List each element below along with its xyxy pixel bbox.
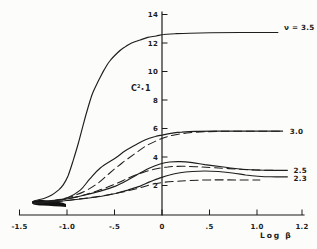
series-nu-3.5-solid bbox=[34, 32, 278, 201]
series-label-nu-2.3-solid: 2.3 bbox=[293, 174, 307, 183]
x-tick-label-.5: .5 bbox=[206, 223, 214, 231]
line-chart: 2468101214 -1.5-1.0-.50.51.01.2 ν = 3.53… bbox=[0, 0, 317, 249]
y-axis-label: C2•1 bbox=[131, 83, 151, 94]
y-tick-label-10: 10 bbox=[148, 68, 158, 76]
series-nu-2.3-dashed bbox=[55, 180, 260, 202]
series-label-nu-3.0-solid: 3.0 bbox=[290, 127, 304, 136]
x-tick-label--.5: -.5 bbox=[109, 223, 120, 231]
curve-series bbox=[34, 32, 288, 203]
x-tick-label-0: 0 bbox=[159, 223, 164, 231]
x-tick-label-1.0: 1.0 bbox=[250, 223, 263, 231]
curve-labels: ν = 3.53.02.52.3 bbox=[284, 23, 315, 182]
x-tick-label--1.0: -1.0 bbox=[59, 223, 75, 231]
y-tick-label-8: 8 bbox=[153, 97, 158, 105]
series-label-nu-3.5-solid: ν = 3.5 bbox=[284, 23, 315, 32]
y-tick-label-4: 4 bbox=[153, 154, 158, 162]
y-tick-label-6: 6 bbox=[153, 125, 158, 133]
axes bbox=[20, 12, 305, 215]
figure-container: 2468101214 -1.5-1.0-.50.51.01.2 ν = 3.53… bbox=[0, 0, 317, 249]
x-axis-label: Log β bbox=[260, 231, 293, 240]
y-tick-label-14: 14 bbox=[148, 11, 158, 19]
x-axis-ticks: -1.5-1.0-.50.51.01.2 bbox=[11, 210, 308, 232]
x-tick-label-1.2: 1.2 bbox=[295, 223, 308, 231]
x-tick-label--1.5: -1.5 bbox=[11, 223, 27, 231]
y-tick-label-12: 12 bbox=[148, 40, 158, 48]
